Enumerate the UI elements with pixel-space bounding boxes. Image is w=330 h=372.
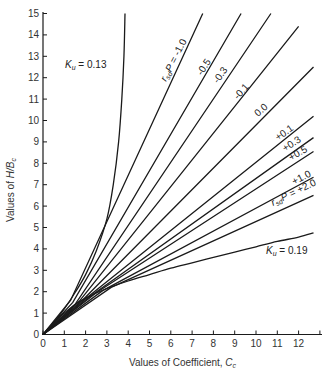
x-tick-label: 8 xyxy=(211,338,217,349)
y-tick-label: 1 xyxy=(33,308,39,319)
x-tick-label: 0 xyxy=(40,338,46,349)
x-tick-label: 6 xyxy=(168,338,174,349)
rp-line xyxy=(43,195,314,334)
y-tick-label: 14 xyxy=(28,29,40,40)
y-axis-title: Values of H/Bc xyxy=(5,158,17,222)
label-rp-00: 0.0 xyxy=(252,101,270,119)
y-tick-label: 6 xyxy=(33,201,39,212)
x-tick-label: 1 xyxy=(62,338,68,349)
x-tick-label: 11 xyxy=(272,338,283,349)
chart-canvas: 0123456789101112 0123456789101112131415 … xyxy=(0,0,330,372)
x-tick-label: 4 xyxy=(125,338,131,349)
y-tick-label: 0 xyxy=(33,329,39,340)
y-ticks: 0123456789101112131415 xyxy=(28,8,47,340)
y-tick-label: 9 xyxy=(33,136,39,147)
y-tick-label: 7 xyxy=(33,179,39,190)
x-ticks: 0123456789101112 xyxy=(40,331,320,349)
label-rp-m03: -0.3 xyxy=(211,64,230,85)
ku-019-label: Ku = 0.19 xyxy=(266,245,308,257)
x-tick-label: 3 xyxy=(104,338,110,349)
ku-013-label: Ku = 0.13 xyxy=(65,59,107,71)
y-tick-label: 8 xyxy=(33,158,39,169)
x-tick-label: 7 xyxy=(189,338,195,349)
y-tick-label: 4 xyxy=(33,243,39,254)
label-rp-m01: -0.1 xyxy=(231,81,251,101)
y-tick-label: 3 xyxy=(33,265,39,276)
y-tick-label: 5 xyxy=(33,222,39,233)
y-tick-label: 13 xyxy=(28,51,40,62)
y-tick-label: 10 xyxy=(28,115,40,126)
x-tick-label: 12 xyxy=(293,338,305,349)
x-tick-label: 2 xyxy=(83,338,89,349)
y-tick-label: 15 xyxy=(28,8,40,19)
x-axis-title: Values of Coefficient, Cc xyxy=(129,357,237,369)
x-tick-label: 9 xyxy=(232,338,238,349)
y-tick-label: 12 xyxy=(28,72,40,83)
y-tick-label: 2 xyxy=(33,286,39,297)
x-tick-label: 10 xyxy=(250,338,262,349)
x-tick-label: 5 xyxy=(147,338,153,349)
y-tick-label: 11 xyxy=(29,94,40,105)
